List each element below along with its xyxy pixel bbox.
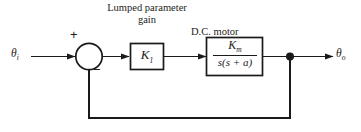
summing-junction-plus-sign: + (70, 28, 78, 43)
motor-transfer-function: Km s(s + a) (208, 39, 262, 69)
output-subscript: o (342, 53, 346, 62)
input-signal-label: θi (11, 47, 19, 63)
gain-block-label: K1 (130, 48, 164, 65)
input-subscript: i (17, 53, 19, 62)
gain-subscript: 1 (149, 56, 153, 65)
block-diagram: Lumped parameter gain D.C. motor θi θo +… (0, 0, 361, 132)
motor-numerator-subscript: m (236, 45, 241, 54)
motor-numerator: Km (208, 39, 262, 54)
takeoff-node-dot (286, 53, 294, 61)
output-signal-label: θo (336, 47, 345, 63)
motor-denominator: s(s + a) (208, 57, 262, 69)
motor-block-caption: D.C. motor (191, 26, 239, 38)
summing-junction-minus-sign: − (93, 63, 101, 78)
gain-block-caption: Lumped parameter gain (104, 2, 190, 26)
